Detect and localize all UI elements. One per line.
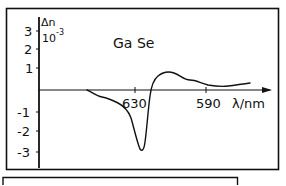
gase-curve [87,72,250,150]
xtick-label-590: 590 [196,96,221,111]
ytick-label-2: 2 [24,42,32,57]
ytick-label-3: 3 [24,24,32,39]
y-axis-scale: 10 [42,32,56,45]
x-axis-label: λ/nm [232,96,265,111]
ytick-label-m1: -1 [17,105,30,120]
ytick-label-m2: -2 [17,124,30,139]
ytick-label-1: 1 [25,61,33,76]
y-axis-scale-exp: -3 [56,28,64,37]
chart-title: Ga Se [113,35,154,51]
ytick-label-m3: -3 [17,145,30,160]
lower-panel-frame [3,178,238,186]
y-axis-label: Δn [41,16,56,29]
chart: 3 2 1 -1 -2 -3 Δn 10 -3 Ga Se 630 590 λ/… [0,0,286,185]
x-axis-arrow-icon [262,87,272,93]
